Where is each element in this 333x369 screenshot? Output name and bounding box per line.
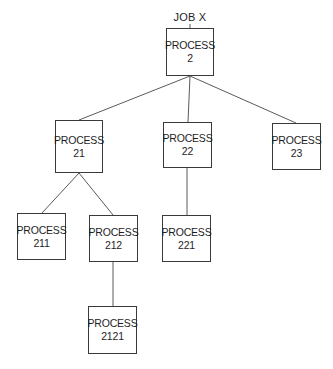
node-number: 211 (33, 237, 49, 250)
process-node-2: PROCESS 2 (166, 28, 214, 76)
edge-p2-p21 (79, 76, 190, 120)
node-label: PROCESS (163, 132, 213, 145)
edge-p2-p22 (188, 76, 190, 122)
node-number: 23 (291, 147, 302, 160)
node-number: 2 (187, 52, 193, 65)
node-label: PROCESS (89, 226, 139, 239)
node-label: PROCESS (54, 134, 104, 147)
process-node-211: PROCESS 211 (17, 213, 66, 260)
node-label: PROCESS (272, 134, 322, 147)
node-number: 212 (105, 239, 122, 252)
edge-p2-p23 (190, 76, 296, 123)
node-label: PROCESS (17, 224, 67, 237)
edge-p21-p211 (42, 173, 79, 213)
job-label: JOB X (174, 11, 207, 23)
edge-p21-p212 (79, 173, 113, 215)
process-node-221: PROCESS 221 (162, 215, 211, 262)
node-label: PROCESS (165, 39, 215, 52)
node-label: PROCESS (88, 317, 138, 330)
process-node-22: PROCESS 22 (163, 122, 212, 168)
node-number: 2121 (101, 330, 124, 343)
process-node-212: PROCESS 212 (89, 215, 138, 262)
node-number: 221 (178, 239, 195, 252)
node-label: PROCESS (162, 226, 212, 239)
node-number: 22 (182, 145, 193, 158)
process-node-2121: PROCESS 2121 (88, 306, 137, 354)
node-number: 21 (73, 147, 84, 160)
process-node-21: PROCESS 21 (55, 120, 103, 173)
process-node-23: PROCESS 23 (272, 123, 321, 170)
